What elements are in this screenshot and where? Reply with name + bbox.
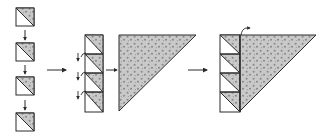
tile-3 — [16, 77, 34, 95]
composite-triangle — [240, 35, 316, 111]
tile-1 — [16, 8, 34, 26]
stage-stack-and-triangle — [78, 35, 196, 112]
stage-composite — [220, 28, 316, 112]
rotate-arrow-icon — [241, 28, 250, 35]
stage-column — [16, 8, 34, 131]
diagram — [0, 0, 328, 137]
large-triangle — [119, 35, 196, 111]
tile-4 — [16, 113, 34, 131]
tile-2 — [16, 43, 34, 61]
stack — [85, 35, 103, 112]
